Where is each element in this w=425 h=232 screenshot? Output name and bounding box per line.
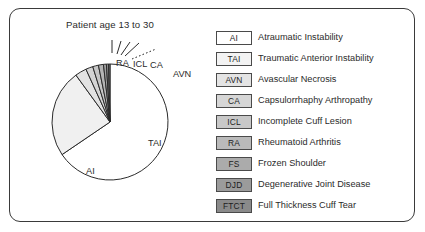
legend-swatch-djd: DJD [216,178,252,192]
pie-slice-label-ai: AI [86,166,95,176]
legend-item-ca: CACapsulorrhaphy Arthropathy [214,93,414,114]
legend-swatch-ai: AI [216,31,252,45]
pie-slice-label-tai: TAI [148,138,162,148]
legend-swatch-fs: FS [216,157,252,171]
legend-item-tai: TAITraumatic Anterior Instability [214,51,414,72]
legend-swatch-ca: CA [216,94,252,108]
legend-item-ftct: FTCTFull Thickness Cuff Tear [214,198,414,219]
figure-panel: Patient age 13 to 30 AI TAI RA ICL CA AV… [0,0,425,232]
legend-label-fs: Frozen Shoulder [258,158,326,168]
legend-label-icl: Incomplete Cuff Lesion [258,116,352,126]
pie-slice-label-avn: AVN [173,69,191,79]
legend: AIAtraumatic InstabilityTAITraumatic Ant… [214,30,414,219]
pie-chart-svg [20,26,205,216]
legend-swatch-icl: ICL [216,115,252,129]
legend-label-ra: Rheumatoid Arthritis [258,137,341,147]
legend-label-ftct: Full Thickness Cuff Tear [258,200,356,210]
legend-swatch-tai: TAI [216,52,252,66]
pie-leader-lines [112,40,156,59]
legend-label-ai: Atraumatic Instability [258,32,343,42]
pie-wedges [52,64,168,180]
legend-label-ca: Capsulorrhaphy Arthropathy [258,95,372,105]
legend-item-djd: DJDDegenerative Joint Disease [214,177,414,198]
pie-slice-label-ca: CA [150,60,163,70]
legend-item-icl: ICLIncomplete Cuff Lesion [214,114,414,135]
legend-item-ra: RARheumatoid Arthritis [214,135,414,156]
pie-chart: AI TAI RA ICL CA AVN [20,26,205,216]
legend-label-tai: Traumatic Anterior Instability [258,53,374,63]
legend-label-djd: Degenerative Joint Disease [258,179,370,189]
pie-slice-label-icl: ICL [133,59,147,69]
legend-label-avn: Avascular Necrosis [258,74,336,84]
legend-item-fs: FSFrozen Shoulder [214,156,414,177]
pie-slice-label-ra: RA [116,58,129,68]
legend-swatch-ftct: FTCT [216,199,252,213]
legend-swatch-ra: RA [216,136,252,150]
legend-swatch-avn: AVN [216,73,252,87]
legend-item-ai: AIAtraumatic Instability [214,30,414,51]
legend-item-avn: AVNAvascular Necrosis [214,72,414,93]
